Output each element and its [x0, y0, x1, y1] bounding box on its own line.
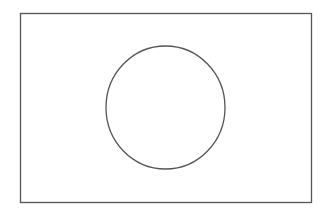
diagram-canvas	[0, 0, 333, 210]
inner-circle	[106, 46, 225, 169]
outer-rectangle	[21, 14, 312, 203]
